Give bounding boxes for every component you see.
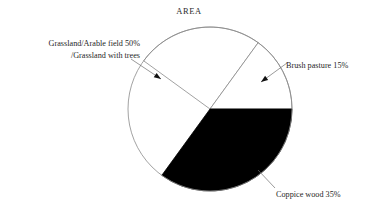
slice-label-grassland: Grassland/Arable field 50% /Grassland wi…	[14, 38, 140, 61]
coppice-leader	[258, 170, 275, 188]
slice-label-brush-pasture: Brush pasture 15%	[286, 60, 348, 72]
pie-chart-canvas	[0, 0, 378, 213]
grassland-leader-arrowhead	[154, 73, 161, 79]
slice-label-coppice-wood: Coppice wood 35%	[276, 189, 341, 201]
pie-slices-group	[128, 27, 292, 191]
pie-slice[interactable]	[162, 109, 292, 191]
slice-label-grassland-line2: /Grassland with trees	[14, 50, 140, 62]
slice-label-grassland-line1: Grassland/Arable field 50%	[14, 38, 140, 50]
pie-chart-figure: AREA Grassland/Arable field 50% /Grassla…	[0, 0, 378, 213]
